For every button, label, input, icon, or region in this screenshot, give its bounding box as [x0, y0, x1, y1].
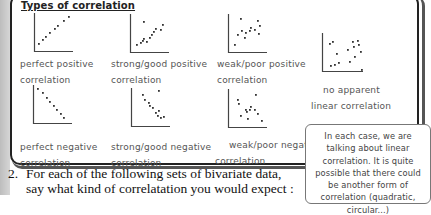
scatter-weak-positive	[227, 14, 267, 54]
data-point	[240, 115, 242, 117]
data-point	[160, 29, 162, 31]
data-point	[360, 51, 362, 53]
data-point	[241, 30, 243, 32]
data-point	[152, 107, 154, 109]
scatter-no-apparent	[321, 33, 363, 73]
data-point	[353, 46, 355, 48]
data-point	[249, 30, 251, 32]
data-point	[332, 41, 334, 43]
scatter-strong-negative	[130, 88, 170, 128]
data-point	[257, 113, 259, 115]
data-point	[155, 112, 157, 114]
data-point	[56, 109, 58, 111]
axes	[131, 14, 170, 53]
data-point	[142, 94, 144, 96]
data-point	[330, 65, 332, 67]
data-point	[244, 37, 246, 39]
label-no-apparent: no apparent linear correlation	[320, 82, 391, 114]
data-point	[261, 120, 263, 122]
note-text: In each case, we are talking about linea…	[315, 131, 421, 215]
data-point	[146, 41, 148, 43]
scatter-weak-negative	[227, 89, 267, 129]
data-point	[49, 101, 51, 103]
data-point	[142, 40, 144, 42]
data-point	[49, 32, 51, 34]
linear-correlation-note: In each case, we are talking about linea…	[305, 124, 431, 204]
data-point	[151, 34, 153, 36]
data-point	[254, 109, 256, 111]
data-point	[245, 32, 247, 34]
data-point	[255, 94, 257, 96]
data-point	[60, 113, 62, 115]
data-point	[136, 44, 138, 46]
data-point	[54, 28, 56, 30]
data-point	[158, 110, 160, 112]
label-perfect-positive: perfect positive correlation	[20, 56, 94, 88]
data-point	[140, 42, 142, 44]
data-point	[234, 44, 236, 46]
data-point	[259, 25, 261, 27]
data-point	[160, 117, 162, 119]
data-point	[250, 27, 252, 29]
data-point	[334, 64, 336, 66]
data-point	[237, 34, 239, 36]
data-point	[157, 115, 159, 117]
data-point	[246, 111, 248, 113]
axes	[34, 85, 73, 124]
question-line-1: For each of the following sets of bivari…	[26, 166, 281, 181]
data-point	[37, 88, 39, 90]
axes	[229, 14, 268, 53]
question-number: 2.	[8, 166, 26, 181]
data-point	[238, 103, 240, 105]
scatter-perfect-negative	[32, 85, 72, 125]
data-point	[158, 90, 160, 92]
data-point	[46, 97, 48, 99]
data-point	[155, 28, 157, 30]
data-point	[63, 20, 65, 22]
question-line-2: say what kind of correlatation you would…	[8, 181, 294, 196]
data-point	[42, 92, 44, 94]
question-2: 2.For each of the following sets of biva…	[8, 166, 294, 196]
data-point	[249, 109, 251, 111]
data-point	[354, 56, 356, 58]
data-point	[257, 20, 259, 22]
data-point	[250, 106, 252, 108]
data-point	[352, 41, 354, 43]
data-point	[68, 16, 70, 18]
data-point	[358, 44, 360, 46]
data-point	[148, 102, 150, 104]
data-point	[245, 109, 247, 111]
label-weak-positive: weak/poor positive correlation	[217, 56, 306, 88]
data-point	[45, 36, 47, 38]
data-point	[258, 33, 260, 35]
data-point	[329, 43, 331, 45]
data-point	[240, 18, 242, 20]
data-point	[349, 61, 351, 63]
scatter-perfect-positive	[33, 13, 73, 53]
label-strong-positive: strong/good positive correlation	[111, 56, 207, 88]
data-point	[144, 99, 146, 101]
data-point	[347, 49, 349, 51]
data-point	[254, 29, 256, 31]
data-point	[153, 31, 155, 33]
data-point	[53, 105, 55, 107]
axes	[323, 33, 364, 72]
data-point	[336, 53, 338, 55]
axes	[35, 13, 74, 52]
data-point	[237, 99, 239, 101]
data-point	[149, 105, 151, 107]
data-point	[162, 24, 164, 26]
data-point	[247, 118, 249, 120]
section-title: Types of correlation	[21, 0, 135, 11]
data-point	[143, 21, 145, 23]
data-point	[163, 116, 165, 118]
data-point	[57, 25, 59, 27]
data-point	[63, 117, 65, 119]
data-point	[357, 40, 359, 42]
axes	[132, 88, 171, 127]
data-point	[143, 38, 145, 40]
data-point	[149, 37, 151, 39]
data-point	[42, 39, 44, 41]
data-point	[38, 43, 40, 45]
scatter-strong-positive	[129, 14, 169, 54]
